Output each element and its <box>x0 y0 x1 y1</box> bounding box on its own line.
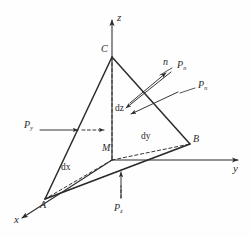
pressure-pn-upper-subscript: n <box>183 64 186 71</box>
dimension-label-dx: dx <box>61 163 71 173</box>
edge-ma-dx <box>45 160 112 199</box>
axis-label-y: y <box>233 163 238 174</box>
vertex-label-m: M <box>102 143 110 153</box>
arrow-normal-n <box>130 73 166 103</box>
axis-label-x: x <box>14 214 19 225</box>
vertex-label-a: A <box>40 200 46 210</box>
leader-pn-upper <box>160 68 172 75</box>
vertex-label-c: C <box>101 44 108 54</box>
arrow-pn-lower <box>131 92 178 114</box>
pressure-label-py: Py <box>24 120 33 130</box>
normal-vector-label-n: n <box>163 57 168 67</box>
pressure-py-subscript: y <box>30 124 33 131</box>
dimension-label-dy: dy <box>141 132 151 142</box>
axis-label-z: z <box>117 12 121 23</box>
pressure-pz-subscript: z <box>120 207 122 214</box>
diagram-canvas <box>0 0 251 237</box>
vertex-label-b: B <box>193 134 199 144</box>
pressure-label-pz: Pz <box>114 203 123 213</box>
pressure-pn-lower-subscript: n <box>204 84 207 91</box>
pressure-label-pn-upper: Pn <box>177 60 186 70</box>
edge-cb <box>112 57 190 144</box>
edge-mb-dy <box>112 144 190 160</box>
pressure-label-pn-lower: Pn <box>198 80 207 90</box>
figure-container: z y x C B A M dz dy dx n Py Pn Pn Pz <box>0 0 251 237</box>
dimension-label-dz: dz <box>115 104 124 114</box>
arrow-pn-upper <box>126 72 171 108</box>
leader-pn-lower <box>180 88 195 93</box>
